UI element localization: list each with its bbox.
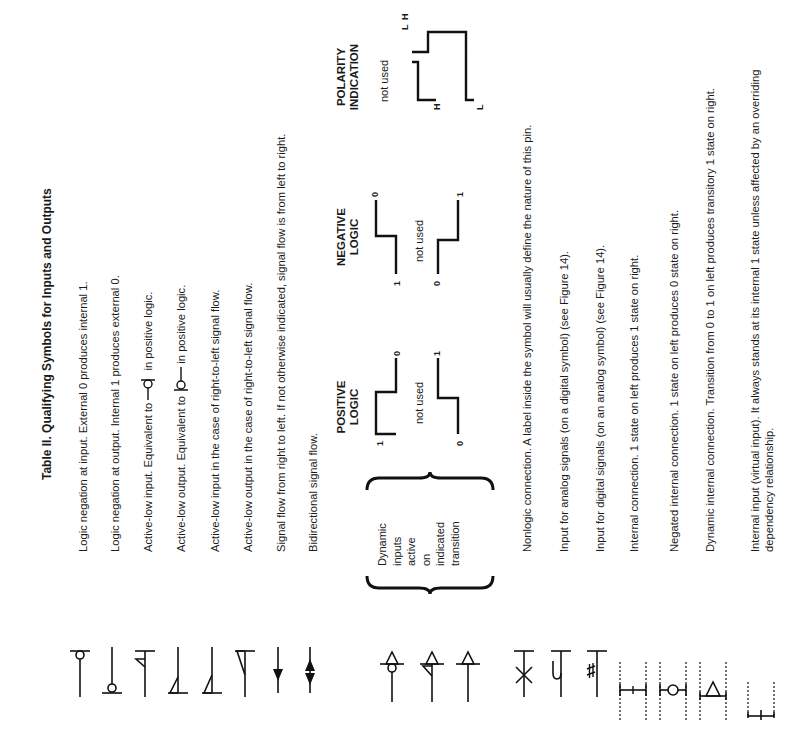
- row-text-logic-negation-output: Logic negation at output. Internal 1 pro…: [108, 275, 122, 552]
- rotated-document-page: Table II. Qualifying Symbols for Inputs …: [0, 0, 805, 742]
- dynamic-inputs-label: Dynamic inputs active on indicated trans…: [375, 506, 462, 566]
- nonlogic-connection-symbol: [511, 647, 537, 697]
- dynamic-input-symbol: [454, 652, 482, 702]
- negation-input-equivalent-icon: [141, 374, 155, 400]
- polarity-not-used: not used: [378, 60, 390, 102]
- row-text-signal-flow-rtl: Signal flow from right to left. If not o…: [274, 134, 288, 552]
- active-low-output-rtl-symbol: [232, 647, 258, 697]
- dynamic-input-active-low-symbol: [418, 652, 446, 702]
- row-text-active-low-output-rtl: Active-low output in the case of right-t…: [241, 283, 255, 552]
- row-text-analog-input: Input for analog signals (on a digital s…: [557, 251, 571, 552]
- positive-logic-rising-waveform: [432, 352, 470, 442]
- dynamic-input-negated-symbol: [378, 652, 406, 702]
- negative-logic-heading: NEGATIVELOGIC: [335, 192, 361, 282]
- negative-logic-waveform-2: [432, 190, 470, 280]
- right-brace-icon: [365, 472, 495, 494]
- negated-internal-connection-symbol: [656, 660, 690, 720]
- table-title: Table II. Qualifying Symbols for Inputs …: [40, 188, 54, 480]
- row-text-internal-input: Internal input (virtual input). It alway…: [748, 32, 776, 552]
- positive-logic-not-used: not used: [413, 382, 425, 424]
- active-low-input-rtl-symbol: [199, 647, 225, 697]
- row-text-nonlogic-connection: Nonlogic connection. A label inside the …: [520, 125, 534, 552]
- internal-connection-symbol: [616, 660, 650, 720]
- positive-logic-heading: POSITIVELOGIC: [335, 362, 361, 452]
- logic-negation-input-symbol: [67, 647, 93, 697]
- digital-input-symbol: [584, 647, 610, 697]
- negative-logic-not-used: not used: [413, 220, 425, 262]
- row-text-active-low-output: Active-low output. Equivalent to in posi…: [174, 285, 188, 552]
- analog-input-symbol: [548, 647, 574, 697]
- logic-negation-output-symbol: [99, 647, 125, 697]
- dynamic-internal-connection-symbol: [696, 660, 730, 720]
- row-text-dynamic-internal-connection: Dynamic internal connection. Transition …: [703, 32, 717, 552]
- bidirectional-arrow-symbol: [297, 647, 323, 697]
- active-low-input-symbol: [132, 647, 158, 697]
- internal-input-symbol: [744, 660, 778, 720]
- row-text-logic-negation-input: Logic negation at input. External 0 prod…: [76, 281, 90, 552]
- row-text-negated-internal-connection: Negated internal connection. 1 state on …: [667, 210, 681, 552]
- active-low-output-symbol: [165, 647, 191, 697]
- row-text-digital-input: Input for digital signals (on an analog …: [593, 245, 607, 552]
- negative-logic-waveform-1: [370, 190, 408, 280]
- row-text-internal-connection: Internal connection. 1 state on left pro…: [627, 255, 641, 552]
- polarity-waveform-high-low: [408, 22, 482, 102]
- row-text-active-low-input-rtl: Active-low input in the case of right-to…: [208, 290, 222, 552]
- negation-output-equivalent-icon: [174, 367, 188, 393]
- polarity-indication-heading: POLARITYINDICATION: [335, 27, 361, 127]
- signal-flow-rtl-arrow-symbol: [265, 647, 291, 697]
- left-brace-icon: [365, 572, 495, 594]
- row-text-bidirectional: Bidirectional signal flow.: [306, 433, 320, 552]
- row-text-active-low-input: Active-low input. Equivalent to in posit…: [141, 292, 155, 552]
- positive-logic-falling-waveform: [370, 352, 408, 442]
